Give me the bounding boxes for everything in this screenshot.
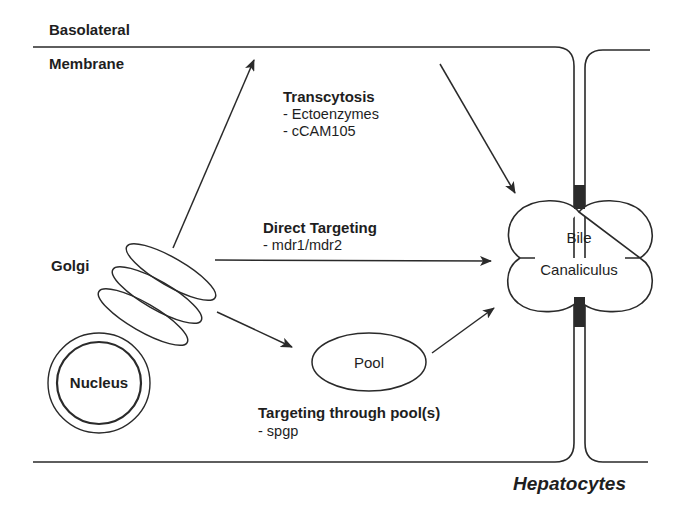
golgi-stack: [92, 234, 222, 354]
direct-targeting-item-mdr: - mdr1/mdr2: [263, 238, 342, 253]
direct-targeting-title: Direct Targeting: [263, 220, 377, 235]
nucleus-label: Nucleus: [70, 375, 128, 390]
arrow-pool-to-bile: [432, 308, 494, 353]
pool-targeting-title: Targeting through pool(s): [258, 405, 440, 420]
membrane-label: Membrane: [49, 56, 124, 71]
hepatocytes-caption: Hepatocytes: [513, 474, 626, 493]
transcytosis-item-ectoenzymes: - Ectoenzymes: [283, 107, 379, 122]
arrow-golgi-to-pool: [217, 312, 292, 347]
bile-canaliculus-shape: [508, 201, 653, 312]
transcytosis-item-ccam105: - cCAM105: [283, 124, 356, 139]
basolateral-label: Basolateral: [49, 22, 130, 37]
pool-targeting-item-spgp: - spgp: [258, 424, 298, 439]
canaliculus-label: Canaliculus: [540, 262, 618, 277]
arrow-direct-targeting: [215, 260, 491, 261]
golgi-label: Golgi: [51, 258, 89, 273]
transcytosis-title: Transcytosis: [283, 89, 375, 104]
arrow-basolateral-to-bile: [440, 64, 515, 193]
arrow-golgi-to-basolateral: [173, 60, 254, 248]
diagram-canvas: [0, 0, 682, 515]
pool-label: Pool: [354, 355, 384, 370]
bile-label: Bile: [566, 230, 591, 245]
